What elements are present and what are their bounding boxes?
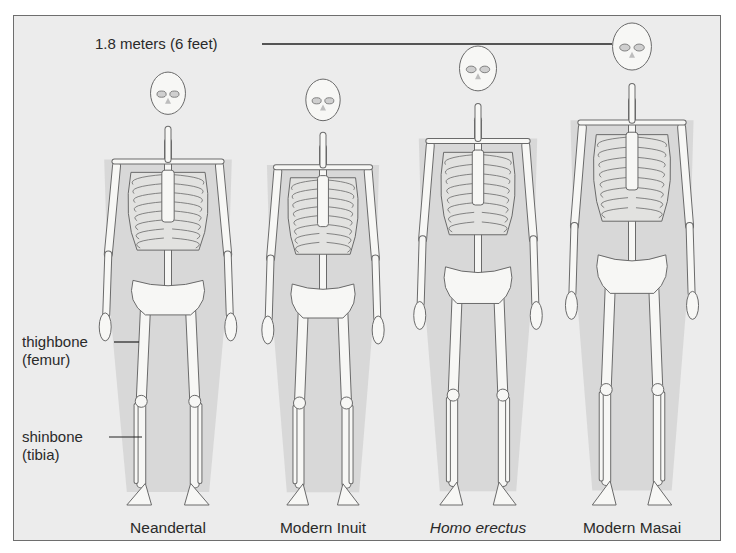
label-neandertal: Neandertal (130, 519, 206, 537)
label-modern-inuit: Modern Inuit (280, 519, 366, 537)
skeleton-comparison-illustration (0, 0, 736, 553)
label-modern-masai: Modern Masai (583, 519, 681, 537)
skeleton-neandertal (99, 72, 237, 505)
label-homo-erectus: Homo erectus (430, 519, 526, 537)
skeleton-modern-masai (565, 23, 698, 505)
skeleton-modern-inuit (262, 79, 384, 505)
height-marker-label: 1.8 meters (6 feet) (95, 35, 218, 53)
femur-label: thighbone (femur) (22, 333, 88, 369)
tibia-label: shinbone (tibia) (22, 428, 83, 464)
skeleton-homo-erectus (414, 46, 543, 505)
